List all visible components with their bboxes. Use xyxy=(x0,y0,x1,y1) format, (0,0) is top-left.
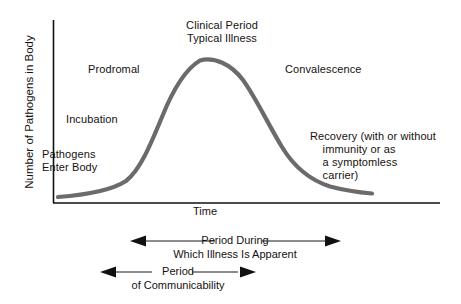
stage-label-pathogens-enter-body: Pathogens Enter Body xyxy=(42,148,126,174)
x-axis-title: Time xyxy=(175,205,235,217)
stage-label-recovery: Recovery (with or without immunity or as… xyxy=(310,130,456,182)
infection-stages-figure: Number of Pathogens in Body Time Clinica… xyxy=(0,0,461,304)
y-axis-title: Number of Pathogens in Body xyxy=(23,19,35,205)
stage-label-clinical-period: Clinical Period Typical Illness xyxy=(166,19,278,45)
communicability-period-label: Period of Communicability xyxy=(120,265,236,292)
illness-period-label: Period During Which Illness Is Apparent xyxy=(155,234,315,261)
stage-label-convalescence: Convalescence xyxy=(285,63,395,76)
stage-label-prodromal: Prodromal xyxy=(88,63,168,76)
stage-label-incubation: Incubation xyxy=(66,113,146,126)
